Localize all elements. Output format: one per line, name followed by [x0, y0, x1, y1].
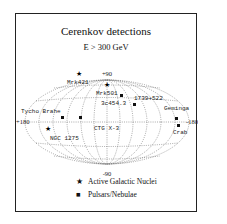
chart-frame: Cerenkov detections E > 300 GeV +90 -90 …	[15, 13, 197, 212]
pulsar-square-icon	[120, 94, 123, 97]
source-label-crab: Crab	[173, 129, 188, 136]
legend-agn: ★Active Galactic Nuclei	[76, 177, 157, 186]
pulsar-square-icon	[79, 116, 82, 119]
pulsar-square-icon	[133, 103, 136, 106]
label-right: -180	[186, 118, 198, 125]
square-icon: ■	[76, 190, 88, 199]
pulsar-square-icon	[61, 116, 64, 119]
source-label-ctg: CTG X-3	[94, 125, 120, 132]
label-left: +180	[16, 118, 29, 125]
source-label-mrk501: Mrk501	[96, 90, 118, 97]
agn-star-icon: ★	[104, 81, 110, 89]
source-label-mrk421: Mrk421	[67, 79, 89, 86]
pulsar-square-icon	[175, 117, 178, 120]
star-icon: ★	[76, 177, 88, 186]
agn-star-icon: ★	[76, 70, 82, 78]
label-bottom: -90	[103, 170, 112, 177]
source-label-3c454: 3c454.3	[101, 100, 127, 107]
source-label-tycho: Tycho Brahe	[21, 108, 61, 115]
label-top: +90	[102, 70, 112, 77]
source-label-ngc1275: NGC 1275	[50, 135, 79, 142]
pulsar-square-icon	[177, 124, 180, 127]
source-label-geminga: Geminga	[164, 105, 190, 112]
agn-star-icon: ★	[45, 125, 51, 133]
legend-pulsar: ■Pulsars/Nebulae	[76, 190, 137, 199]
source-label-1739: 1739+522	[134, 95, 163, 102]
